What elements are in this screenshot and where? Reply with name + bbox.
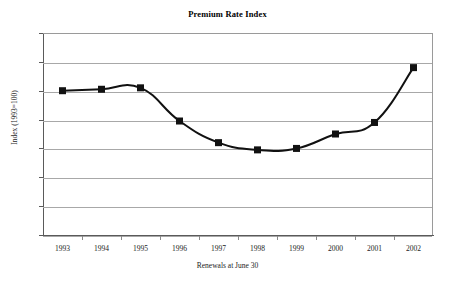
y-axis-title: Index (1993=100) xyxy=(10,68,19,168)
y-tick-mark xyxy=(39,148,43,149)
x-tick-label: 1995 xyxy=(121,245,160,253)
gridline xyxy=(43,121,432,122)
x-tick-mark xyxy=(277,236,278,240)
y-tick-mark xyxy=(39,235,43,236)
x-tick-mark xyxy=(316,236,317,240)
y-tick-mark xyxy=(39,120,43,121)
x-tick-mark xyxy=(199,236,200,240)
x-tick-label: 1999 xyxy=(277,245,316,253)
x-tick-label: 2002 xyxy=(394,245,433,253)
y-tick-mark xyxy=(39,33,43,34)
gridlines xyxy=(43,34,432,235)
y-tick-mark xyxy=(39,177,43,178)
x-tick-mark xyxy=(82,236,83,240)
x-tick-label: 1994 xyxy=(82,245,121,253)
x-tick-label: 1998 xyxy=(238,245,277,253)
x-tick-label: 2000 xyxy=(316,245,355,253)
x-tick-label: 1993 xyxy=(43,245,82,253)
x-axis-title: Renewals at June 30 xyxy=(0,261,455,270)
plot-area xyxy=(43,33,433,235)
x-tick-mark xyxy=(238,236,239,240)
x-tick-label: 1996 xyxy=(160,245,199,253)
x-tick-mark xyxy=(160,236,161,240)
x-tick-mark xyxy=(355,236,356,240)
gridline xyxy=(43,207,432,208)
x-tick-mark xyxy=(394,236,395,240)
gridline xyxy=(43,149,432,150)
y-tick-mark xyxy=(39,206,43,207)
x-tick-mark xyxy=(121,236,122,240)
chart-figure: Premium Rate Index 020406080100120140 19… xyxy=(0,0,455,282)
y-tick-mark xyxy=(39,91,43,92)
x-tick-label: 2001 xyxy=(355,245,394,253)
gridline xyxy=(43,178,432,179)
x-tick-label: 1997 xyxy=(199,245,238,253)
y-tick-mark xyxy=(39,62,43,63)
gridline xyxy=(43,63,432,64)
chart-title: Premium Rate Index xyxy=(0,9,455,19)
gridline xyxy=(43,92,432,93)
